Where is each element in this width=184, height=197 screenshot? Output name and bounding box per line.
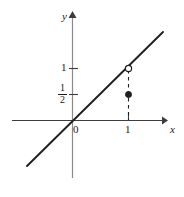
fraction-denominator: 2: [58, 95, 67, 106]
x-axis-arrowhead: [162, 117, 168, 125]
fraction-numerator: 1: [58, 83, 67, 94]
filled-dot-point: [126, 92, 132, 98]
graph-figure: y x 1 1 2 0 1: [0, 0, 184, 197]
graph-canvas: [0, 0, 184, 197]
y-tick-label-one-half: 1 2: [58, 83, 67, 105]
line-y-equals-x: [27, 32, 163, 166]
y-axis-label: y: [62, 11, 67, 22]
x-tick-label-one: 1: [125, 124, 131, 135]
x-axis-label: x: [170, 124, 175, 135]
fraction-one-half: 1 2: [58, 83, 67, 105]
y-tick-label-one: 1: [61, 62, 67, 73]
open-circle-point: [125, 65, 131, 71]
y-axis-arrowhead: [69, 11, 77, 18]
origin-label-zero: 0: [73, 124, 79, 135]
